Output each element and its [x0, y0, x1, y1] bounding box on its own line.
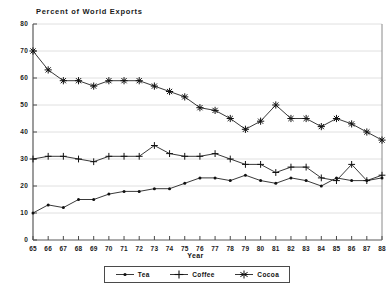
svg-text:84: 84	[317, 245, 325, 252]
svg-text:83: 83	[302, 245, 310, 252]
legend-item-coffee: Coffee	[169, 270, 215, 279]
legend-item-tea: Tea	[115, 270, 150, 279]
svg-text:40: 40	[20, 128, 28, 135]
svg-text:50: 50	[20, 101, 28, 108]
chart-container: Percent of World Exports 010203040506070…	[0, 0, 391, 286]
series-cocoa	[29, 47, 385, 143]
svg-text:78: 78	[226, 245, 234, 252]
svg-text:81: 81	[272, 245, 280, 252]
svg-text:70: 70	[20, 47, 28, 54]
svg-text:82: 82	[287, 245, 295, 252]
legend-label-coffee: Coffee	[192, 271, 215, 278]
svg-text:67: 67	[60, 245, 68, 252]
svg-text:80: 80	[257, 245, 265, 252]
svg-text:72: 72	[135, 245, 143, 252]
data-series-layer	[29, 47, 385, 214]
svg-text:77: 77	[211, 245, 219, 252]
coffee-marker-icon	[169, 270, 189, 279]
svg-text:74: 74	[166, 245, 174, 252]
svg-text:0: 0	[24, 236, 28, 243]
y-axis-tick-labels: 01020304050607080	[20, 20, 28, 243]
svg-text:65: 65	[29, 245, 37, 252]
svg-text:73: 73	[151, 245, 159, 252]
chart-legend: Tea Coffee Cocoa	[104, 266, 290, 283]
svg-text:85: 85	[333, 245, 341, 252]
legend-label-cocoa: Cocoa	[257, 271, 279, 278]
gridlines	[33, 24, 382, 213]
svg-text:66: 66	[44, 245, 52, 252]
svg-text:76: 76	[196, 245, 204, 252]
x-axis-tick-labels: 6566676869707172737475767778798081828384…	[29, 245, 386, 252]
svg-text:68: 68	[75, 245, 83, 252]
svg-text:88: 88	[378, 245, 386, 252]
x-axis-title: Year	[0, 252, 391, 259]
plot-area: 01020304050607080 6566676869707172737475…	[0, 0, 391, 286]
svg-text:87: 87	[363, 245, 371, 252]
svg-text:79: 79	[242, 245, 250, 252]
tea-marker-icon	[115, 270, 135, 279]
svg-text:69: 69	[90, 245, 98, 252]
svg-text:70: 70	[105, 245, 113, 252]
svg-text:10: 10	[20, 209, 28, 216]
svg-text:75: 75	[181, 245, 189, 252]
svg-text:80: 80	[20, 20, 28, 27]
svg-text:30: 30	[20, 155, 28, 162]
svg-text:20: 20	[20, 182, 28, 189]
svg-text:86: 86	[348, 245, 356, 252]
cocoa-marker-icon	[234, 270, 254, 279]
svg-text:60: 60	[20, 74, 28, 81]
svg-text:71: 71	[120, 245, 128, 252]
legend-label-tea: Tea	[138, 271, 150, 278]
legend-item-cocoa: Cocoa	[234, 270, 279, 279]
